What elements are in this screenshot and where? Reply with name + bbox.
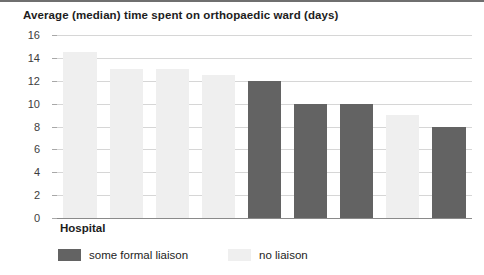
legend-label: some formal liaison bbox=[89, 249, 188, 261]
bar bbox=[63, 52, 96, 218]
bar bbox=[248, 81, 281, 218]
chart-figure: Average (median) time spent on orthopaed… bbox=[0, 0, 484, 275]
plot-area: 1614121086420 bbox=[57, 35, 472, 218]
y-axis-tick-label: 14 bbox=[10, 52, 40, 64]
bar bbox=[432, 127, 465, 219]
gridline bbox=[57, 218, 472, 219]
y-axis-tick-label: 12 bbox=[10, 75, 40, 87]
chart-legend: some formal liaisonno liaison bbox=[58, 249, 308, 261]
legend-item: some formal liaison bbox=[58, 249, 188, 261]
bar bbox=[110, 69, 143, 218]
top-divider bbox=[0, 0, 484, 2]
bars-layer bbox=[57, 35, 472, 218]
x-axis-label: Hospital bbox=[60, 222, 105, 234]
legend-color-swatch bbox=[228, 249, 251, 261]
bar bbox=[386, 115, 419, 218]
bar bbox=[156, 69, 189, 218]
legend-color-swatch bbox=[58, 249, 81, 261]
y-axis-tick-mark bbox=[52, 218, 57, 219]
legend-label: no liaison bbox=[259, 249, 308, 261]
bar bbox=[340, 104, 373, 218]
legend-item: no liaison bbox=[228, 249, 308, 261]
y-axis-tick-label: 8 bbox=[10, 121, 40, 133]
bar bbox=[202, 75, 235, 218]
y-axis-tick-label: 16 bbox=[10, 29, 40, 41]
legend-spacer bbox=[197, 255, 219, 256]
y-axis-tick-label: 10 bbox=[10, 98, 40, 110]
chart-title: Average (median) time spent on orthopaed… bbox=[23, 9, 339, 21]
y-axis-tick-label: 4 bbox=[10, 166, 40, 178]
y-axis-tick-label: 6 bbox=[10, 143, 40, 155]
y-axis-tick-label: 2 bbox=[10, 189, 40, 201]
y-axis-tick-label: 0 bbox=[10, 212, 40, 224]
bar bbox=[294, 104, 327, 218]
